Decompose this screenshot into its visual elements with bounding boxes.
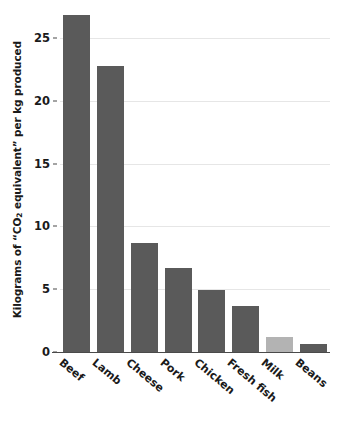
bar (300, 344, 327, 352)
bar (131, 243, 158, 352)
x-axis-labels: BeefLambCheesePorkChickenFresh fishMilkB… (60, 356, 345, 428)
y-tick-label: 5 (24, 282, 50, 296)
x-tick-label: Milk (259, 356, 287, 383)
y-tick-mark (53, 289, 57, 290)
y-axis-title-text-after: equivalent” per kg produced (11, 41, 23, 213)
bar (97, 66, 124, 352)
x-axis-line (52, 352, 330, 353)
bar (232, 306, 259, 352)
y-tick-label: 20 (24, 94, 50, 108)
bar (198, 290, 225, 352)
y-tick-mark (53, 163, 57, 164)
bar-chart: Kilograms of “CO2 equivalent” per kg pro… (0, 0, 345, 428)
y-tick-label: 0 (24, 345, 50, 359)
y-axis-title-text-before: Kilograms of “CO (11, 218, 23, 319)
y-tick-mark (53, 38, 57, 39)
y-tick-mark (53, 226, 57, 227)
x-tick-label: Lamb (90, 356, 124, 388)
x-tick-label: Beans (293, 356, 330, 390)
bar (266, 337, 293, 352)
bar (165, 268, 192, 352)
y-axis-title: Kilograms of “CO2 equivalent” per kg pro… (0, 0, 36, 360)
y-tick-label: 25 (24, 31, 50, 45)
y-axis-title-subscript: 2 (16, 213, 25, 218)
y-tick-label: 15 (24, 157, 50, 171)
bar (63, 15, 90, 352)
x-tick-label: Pork (158, 356, 188, 384)
x-tick-label: Beef (56, 356, 86, 384)
y-tick-label: 10 (24, 219, 50, 233)
bar-series (60, 0, 330, 352)
y-tick-mark (53, 100, 57, 101)
